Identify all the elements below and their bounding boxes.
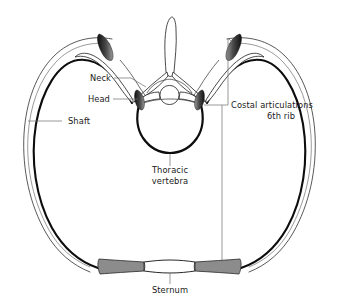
sternum [144,260,195,273]
label-head: Head [88,94,110,104]
label-costal-articulations-line2: 6th rib [267,111,295,121]
label-shaft: Shaft [68,116,91,126]
vertebral-foramen [160,85,179,104]
anatomy-figure: Neck Head Shaft Costal articulations 6th… [0,0,339,297]
anterior-chest-wall [98,259,241,274]
costal-cartilage-left [98,259,144,274]
costal-cartilage-right [195,259,241,274]
thoracic-vertebra [75,17,264,153]
label-thoracic-vertebra-line1: Thoracic [151,165,188,175]
label-costal-articulations-line1: Costal articulations [231,100,313,110]
label-sternum: Sternum [152,285,188,295]
label-neck: Neck [90,73,111,83]
spinous-process [165,17,176,77]
leader-lines [28,38,232,284]
vertebral-body [137,105,202,153]
costal-facet-transverse-left [98,34,114,61]
thorax-cross-section-drawing: Neck Head Shaft Costal articulations 6th… [0,0,339,297]
label-thoracic-vertebra-line2: vertebra [152,176,188,186]
